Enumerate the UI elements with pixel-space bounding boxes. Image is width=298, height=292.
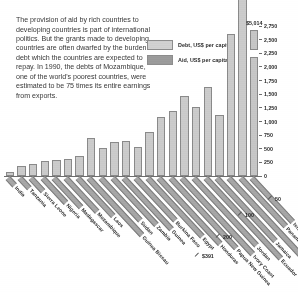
y-axis-tick-mark <box>259 135 262 136</box>
y-axis-tick-mark <box>259 66 262 67</box>
y-axis-tick-label: 1,500 <box>264 91 277 97</box>
bar-debt <box>87 138 95 176</box>
y-axis-tick-mark <box>259 107 262 108</box>
bar-slot <box>237 14 249 176</box>
y-axis-tick-mark <box>259 148 262 149</box>
bar-slot <box>51 14 63 176</box>
bar-debt <box>41 161 49 176</box>
aid-value-annotation: 50 <box>268 196 281 202</box>
bar-debt <box>238 0 246 176</box>
y-axis-tick-label: 2,750 <box>264 23 277 29</box>
bar-slot <box>202 14 214 176</box>
bar-debt <box>145 132 153 176</box>
y-axis-tick-label: 1,750 <box>264 77 277 83</box>
y-axis-tick-mark <box>259 94 262 95</box>
bar-slot <box>120 14 132 176</box>
bar-debt <box>227 34 235 176</box>
bar-slot <box>62 14 74 176</box>
bar-slot <box>39 14 51 176</box>
bar-slot <box>4 14 16 176</box>
bar-debt <box>99 148 107 176</box>
annotation-leader-line <box>195 253 199 257</box>
bar-debt <box>157 117 165 176</box>
bar-slot <box>27 14 39 176</box>
y-axis-tick-label: 1,000 <box>264 118 277 124</box>
bar-slot <box>167 14 179 176</box>
bar-debt <box>64 159 72 176</box>
y-axis-tick-mark <box>259 26 262 27</box>
bar-debt <box>169 111 177 177</box>
bar-series-debt: $5,014 <box>4 14 260 176</box>
y-axis-tick-mark <box>259 162 262 163</box>
bar-slot <box>144 14 156 176</box>
bar-chart-plot-area: $5,014 <box>4 14 260 176</box>
annotation-leader-line <box>238 212 242 216</box>
bar-debt <box>192 107 200 176</box>
bar-slot <box>179 14 191 176</box>
bar-debt <box>29 164 37 177</box>
bar-slot <box>190 14 202 176</box>
annotation-leader-line <box>268 196 272 200</box>
y-axis-tick-label: 2,000 <box>264 63 277 69</box>
y-axis-tick-label: 2,250 <box>264 50 277 56</box>
y-axis-tick-mark <box>259 80 262 81</box>
bar-slot <box>132 14 144 176</box>
aid-value-annotation: 100 <box>238 212 254 218</box>
annotation-leader-line <box>216 234 220 238</box>
bar-slot <box>214 14 226 176</box>
bar-debt <box>122 141 130 177</box>
y-axis-tick-label: 1,250 <box>264 104 277 110</box>
bar-slot <box>74 14 86 176</box>
y-axis-tick-label: 2,500 <box>264 36 277 42</box>
y-axis-tick-mark <box>259 53 262 54</box>
x-axis-label-text: Ecuador <box>280 258 298 278</box>
y-axis-tick-label: 750 <box>264 132 273 138</box>
bar-slot <box>155 14 167 176</box>
bar-debt <box>110 142 118 176</box>
x-axis-leader-band <box>5 176 16 187</box>
bar-slot <box>16 14 28 176</box>
bar-slot <box>225 14 237 176</box>
bar-debt <box>180 96 188 176</box>
bar-debt <box>204 87 212 177</box>
y-axis-tick-label: 500 <box>264 145 273 151</box>
aid-value-annotation: 200 <box>216 234 232 240</box>
bar-debt <box>52 160 60 176</box>
y-axis-tick-label: 250 <box>264 159 273 165</box>
bar-debt <box>134 147 142 176</box>
axis-break-marker <box>250 49 258 58</box>
bar-slot <box>109 14 121 176</box>
y-axis-tick-mark <box>259 121 262 122</box>
x-axis-category-labels: IndiaTanzaniaSierra LeoneNigeriaMadagasc… <box>0 176 298 292</box>
bar-slot <box>97 14 109 176</box>
y-axis: 02505007501,0001,2501,5001,7502,0002,250… <box>259 14 298 176</box>
bar-debt <box>17 166 25 176</box>
y-axis-tick-mark <box>259 39 262 40</box>
aid-and-debt-figure: The provision of aid by rich countries t… <box>0 0 298 292</box>
bar-slot <box>85 14 97 176</box>
bar-debt <box>215 115 223 176</box>
bar-debt <box>75 156 83 176</box>
aid-value-annotation: $391 <box>195 253 214 259</box>
bar-debt: $5,014 <box>250 30 258 176</box>
